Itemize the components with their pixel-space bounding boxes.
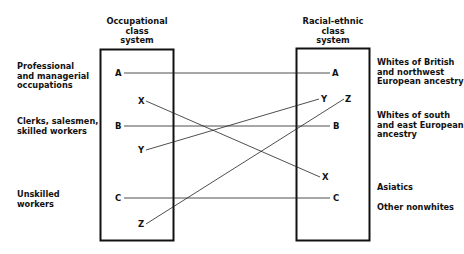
left-node-Z: Z — [138, 219, 144, 229]
label-line: occupations — [17, 81, 89, 91]
connection-line-Y — [146, 99, 319, 150]
connection-line-X — [146, 101, 320, 177]
right-node-B: B — [333, 121, 339, 131]
right-category-other-nonwhites: Other nonwhites — [377, 203, 454, 213]
left-node-Y: Y — [138, 145, 144, 155]
left-category-unskilled: Unskilled workers — [17, 190, 60, 209]
label-line: workers — [17, 200, 60, 210]
label-line: ancestry — [377, 130, 464, 140]
right-node-Y: Y — [321, 94, 327, 104]
right-node-X: X — [322, 172, 329, 182]
left-node-A: A — [115, 68, 122, 78]
right-category-nw-european: Whites of British and northwest European… — [377, 58, 464, 87]
left-category-professional: Professional and managerial occupations — [17, 62, 89, 91]
connection-line-Z — [146, 99, 344, 224]
right-node-C: C — [333, 193, 339, 203]
label-line: Other nonwhites — [377, 203, 454, 213]
right-node-Z: Z — [345, 94, 351, 104]
right-category-asiatics: Asiatics — [377, 183, 413, 193]
label-line: European ancestry — [377, 77, 464, 87]
left-node-B: B — [115, 121, 121, 131]
label-line: skilled workers — [17, 127, 98, 137]
label-line: Asiatics — [377, 183, 413, 193]
left-node-C: C — [115, 193, 121, 203]
right-node-A: A — [332, 68, 339, 78]
left-node-X: X — [138, 96, 145, 106]
left-category-clerks: Clerks, salesmen, skilled workers — [17, 117, 98, 136]
right-category-se-european: Whites of south and east European ancest… — [377, 111, 464, 140]
